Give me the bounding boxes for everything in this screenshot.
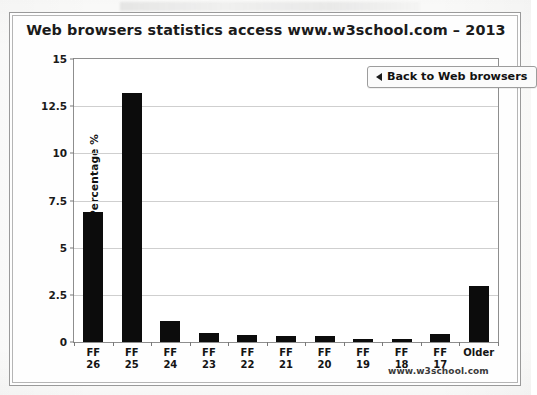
y-tick-mark <box>70 59 74 60</box>
x-tick-label: FF20 <box>318 347 332 371</box>
x-tick-label: FF21 <box>279 347 293 371</box>
y-tick-label: 12.5 <box>41 100 67 112</box>
bar[interactable] <box>160 321 180 342</box>
bar-column[interactable] <box>83 59 103 342</box>
y-tick-label: 2.5 <box>48 289 67 301</box>
x-tick-mark <box>228 342 229 346</box>
x-tick-label: FF22 <box>240 347 254 371</box>
bar-column[interactable] <box>392 59 412 342</box>
y-tick-label: 7.5 <box>48 195 67 207</box>
triangle-left-icon <box>376 73 382 81</box>
x-tick-label-line2: 20 <box>318 359 332 371</box>
back-button-label: Back to Web browsers <box>387 70 527 83</box>
x-tick-mark <box>74 342 75 346</box>
x-tick-label-line1: FF <box>202 347 216 358</box>
y-tick-label: 0 <box>60 336 67 348</box>
bar[interactable] <box>353 339 373 342</box>
x-tick-label: FF23 <box>202 347 216 371</box>
x-tick-label-line1: FF <box>86 347 100 358</box>
y-tick-label: 15 <box>52 53 67 65</box>
x-tick-label: FF19 <box>356 347 370 371</box>
x-tick-label-line2: 25 <box>125 359 139 371</box>
bar[interactable] <box>392 339 412 342</box>
x-tick-mark <box>151 342 152 346</box>
chart-title: Web browsers statistics access www.w3sch… <box>14 22 518 38</box>
bar-column[interactable] <box>430 59 450 342</box>
bar-column[interactable] <box>469 59 489 342</box>
x-tick-mark <box>113 342 114 346</box>
bar-column[interactable] <box>199 59 219 342</box>
scan-smudge <box>120 2 420 11</box>
x-tick-label-line1: FF <box>433 347 447 358</box>
bar-column[interactable] <box>122 59 142 342</box>
bar-column[interactable] <box>315 59 335 342</box>
x-tick-label-line1: FF <box>125 347 139 358</box>
x-tick-mark <box>190 342 191 346</box>
bar-column[interactable] <box>160 59 180 342</box>
bar-column[interactable] <box>237 59 257 342</box>
x-tick-label-line2: 22 <box>240 359 254 371</box>
x-tick-mark <box>305 342 306 346</box>
x-tick-mark <box>344 342 345 346</box>
x-tick-label: Older <box>463 347 494 359</box>
bar[interactable] <box>237 335 257 342</box>
bar[interactable] <box>83 212 103 342</box>
x-tick-label: FF24 <box>163 347 177 371</box>
bar-column[interactable] <box>276 59 296 342</box>
x-tick-mark <box>459 342 460 346</box>
plot-area: Percentage % 02.557.51012.515 FF26FF25FF… <box>73 58 499 343</box>
back-to-web-browsers-button[interactable]: Back to Web browsers <box>367 66 537 88</box>
x-tick-label-line2: 19 <box>356 359 370 371</box>
bar[interactable] <box>430 334 450 342</box>
x-tick-label-line2: 23 <box>202 359 216 371</box>
bar[interactable] <box>276 336 296 342</box>
x-tick-mark <box>382 342 383 346</box>
x-tick-label: FF25 <box>125 347 139 371</box>
x-tick-label-line1: FF <box>356 347 370 358</box>
x-tick-label-line2: 24 <box>163 359 177 371</box>
x-tick-label-line1: FF <box>395 347 409 358</box>
x-tick-label-line2: 26 <box>86 359 100 371</box>
x-tick-label-line2: 21 <box>279 359 293 371</box>
bar[interactable] <box>122 93 142 342</box>
x-tick-mark <box>267 342 268 346</box>
bar[interactable] <box>469 286 489 342</box>
bar[interactable] <box>315 336 335 342</box>
x-tick-mark <box>498 342 499 346</box>
y-tick-label: 10 <box>52 147 67 159</box>
x-tick-label-line1: FF <box>241 347 255 358</box>
y-tick-label: 5 <box>60 242 67 254</box>
x-tick-label-line1: Older <box>463 347 494 358</box>
x-tick-mark <box>421 342 422 346</box>
x-tick-label: FF26 <box>86 347 100 371</box>
x-tick-label-line1: FF <box>318 347 332 358</box>
bar[interactable] <box>199 333 219 342</box>
watermark-text: www.w3school.com <box>388 366 489 376</box>
bar-column[interactable] <box>353 59 373 342</box>
x-tick-label-line1: FF <box>279 347 293 358</box>
x-tick-label-line1: FF <box>164 347 178 358</box>
